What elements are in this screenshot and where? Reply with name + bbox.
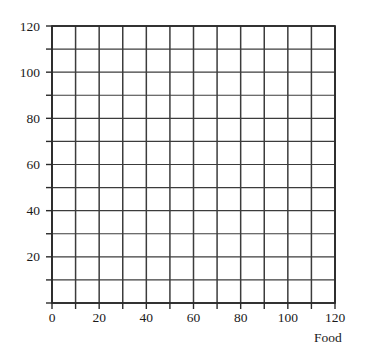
y-axis-tick-label: 20 (27, 249, 41, 264)
x-axis-tick-label: 80 (234, 310, 248, 325)
x-axis-tick-label: 0 (49, 310, 56, 325)
grid-chart: 020406080100120 20406080100120 Food (0, 0, 368, 362)
x-axis-tick-label: 60 (187, 310, 201, 325)
y-axis-tick-label: 80 (27, 111, 41, 126)
y-axis-tick-label: 120 (20, 19, 41, 34)
y-axis-tick-label: 60 (27, 157, 41, 172)
x-axis-tick-label: 20 (92, 310, 106, 325)
chart-background (0, 0, 368, 362)
x-axis-tick-label: 120 (325, 310, 346, 325)
x-axis-tick-label: 40 (140, 310, 154, 325)
y-axis-tick-label: 40 (27, 203, 41, 218)
x-axis-tick-label: 100 (278, 310, 299, 325)
chart-canvas: 020406080100120 20406080100120 Food (0, 0, 368, 362)
y-axis-tick-label: 100 (20, 65, 41, 80)
x-axis-title: Food (314, 330, 342, 345)
